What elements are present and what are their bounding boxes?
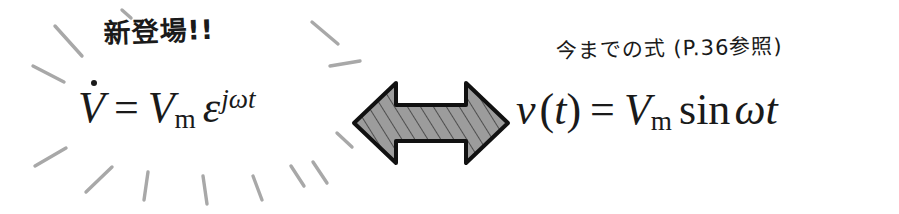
epsilon-symbol: ε: [203, 83, 220, 132]
previous-equation-caption: 今までの式 (P.36参照): [555, 29, 782, 64]
amplitude-subscript-m: m: [175, 104, 196, 134]
phasor-voltage-equation: V=Vmεjωt: [78, 82, 256, 135]
ray-left-low-8: [35, 148, 66, 166]
ray-right-low-7: [313, 162, 327, 183]
sine-function-name: sin: [679, 85, 730, 134]
ray-bottom-10: [144, 172, 148, 200]
amplitude-symbol-v-right: V: [624, 85, 651, 134]
omega-t-argument: ωt: [734, 85, 777, 134]
ray-left-upper-2: [33, 66, 64, 82]
equals-sign-left: =: [105, 83, 148, 132]
close-paren: ): [566, 85, 581, 134]
new-arrival-callout: 新登場!!: [103, 8, 215, 51]
figure-canvas: 新登場!! V=Vmεjωt 今までの式 (P.36参照) v(t)=Vmsin…: [0, 0, 899, 214]
ray-bottom-12: [253, 176, 262, 200]
double-headed-arrow: [350, 78, 512, 168]
time-variable-t: t: [554, 85, 566, 134]
ray-upper-left-1: [55, 26, 82, 56]
ray-bottom-13: [291, 166, 304, 186]
ray-bottom-11: [203, 176, 207, 204]
open-paren: (: [540, 85, 555, 134]
ray-right-5: [330, 61, 360, 66]
ray-upper-right-4: [312, 22, 338, 44]
exponent-jwt: jωt: [221, 84, 255, 114]
instantaneous-symbol-v: v: [516, 85, 536, 134]
instantaneous-voltage-equation: v(t)=Vmsinωt: [516, 84, 778, 137]
amplitude-subscript-m-right: m: [651, 106, 672, 136]
ray-bottom-left-9: [86, 167, 112, 192]
amplitude-symbol-v: V: [148, 83, 175, 132]
arrow-body: [354, 83, 508, 163]
phasor-symbol-v-dot: V: [78, 82, 105, 133]
equals-sign-right: =: [581, 85, 624, 134]
